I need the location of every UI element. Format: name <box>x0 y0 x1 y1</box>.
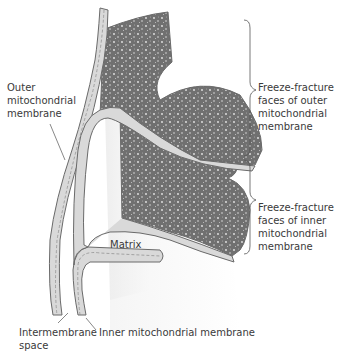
ff-inner-label: Freeze-fracture faces of inner mitochond… <box>258 201 334 253</box>
matrix-label: Matrix <box>110 238 141 251</box>
outer-membrane-leader <box>50 124 65 160</box>
inner-membrane-label: Inner mitochondrial membrane <box>99 326 255 339</box>
ff-outer-label: Freeze-fracture faces of outer mitochond… <box>258 81 334 133</box>
intermembrane-label: Intermembrane space <box>19 326 97 352</box>
mitochondria-diagram <box>0 0 338 355</box>
outer-membrane-label: Outer mitochondrial membrane <box>7 81 76 120</box>
